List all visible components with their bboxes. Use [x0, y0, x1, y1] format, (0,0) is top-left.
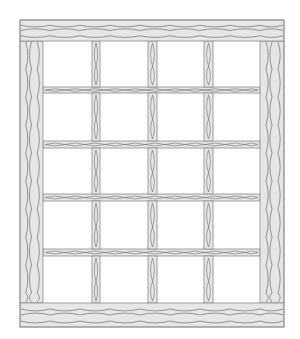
horizontal-muntin-1	[43, 87, 260, 93]
window-frame-drawing	[0, 0, 300, 339]
horizontal-muntin-4	[43, 249, 260, 256]
vertical-muntin-3	[204, 41, 213, 303]
horizontal-muntin-2	[43, 141, 260, 148]
window-frame-diagram	[0, 0, 300, 339]
horizontal-muntin-3	[43, 194, 260, 201]
top-rail	[20, 20, 284, 41]
vertical-muntin-2	[148, 41, 157, 303]
vertical-muntin-1	[92, 41, 100, 303]
right-post	[260, 41, 284, 303]
bottom-rail	[20, 303, 284, 327]
left-post	[20, 41, 43, 303]
